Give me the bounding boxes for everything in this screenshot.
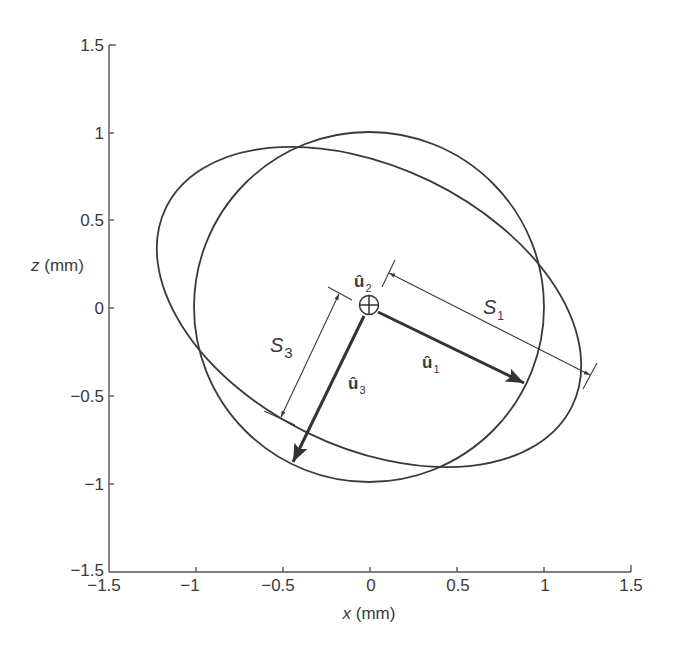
x-tick-labels: −1.5 −1 −0.5 0 0.5 1 1.5 bbox=[87, 576, 643, 595]
principal-axes-figure: 1.5 1 0.5 0 −0.5 −1 −1.5 −1.5 −1 −0.5 0 … bbox=[0, 0, 681, 646]
x-tick-label: 1.5 bbox=[619, 576, 643, 595]
s1-end-tick bbox=[583, 363, 597, 389]
s1-dimension-line bbox=[389, 273, 590, 375]
u3-label: û3 bbox=[348, 374, 366, 396]
x-tick-label: −1 bbox=[180, 576, 199, 595]
u2-label: û2 bbox=[354, 272, 372, 294]
s3-end-tick bbox=[264, 411, 295, 425]
unit-vectors bbox=[293, 312, 524, 462]
y-tick-labels: 1.5 1 0.5 0 −0.5 −1 −1.5 bbox=[70, 36, 104, 580]
y-tick-label: −0.5 bbox=[70, 387, 104, 406]
x-tick-label: −0.5 bbox=[261, 576, 295, 595]
x-axis-label: x (mm) bbox=[342, 604, 396, 623]
x-tick-label: 0.5 bbox=[446, 576, 470, 595]
y-tick-label: 1 bbox=[95, 124, 104, 143]
y-tick-label: 0 bbox=[95, 299, 104, 318]
y-axis-label: z (mm) bbox=[30, 256, 84, 275]
s1-start-tick bbox=[382, 260, 395, 287]
x-tick-label: 1 bbox=[540, 576, 549, 595]
s1-label: S1 bbox=[483, 296, 504, 323]
y-tick-label: −1 bbox=[85, 475, 104, 494]
x-tick-label: 0 bbox=[366, 576, 375, 595]
y-tick-label: 1.5 bbox=[80, 36, 104, 55]
dimension-lines bbox=[264, 260, 597, 425]
s3-label: S3 bbox=[270, 334, 293, 361]
s3-start-tick bbox=[328, 287, 352, 300]
u1-label: û1 bbox=[422, 353, 440, 375]
y-tick-label: 0.5 bbox=[80, 211, 104, 230]
u2-into-page-icon bbox=[360, 296, 379, 315]
x-tick-label: −1.5 bbox=[87, 576, 121, 595]
